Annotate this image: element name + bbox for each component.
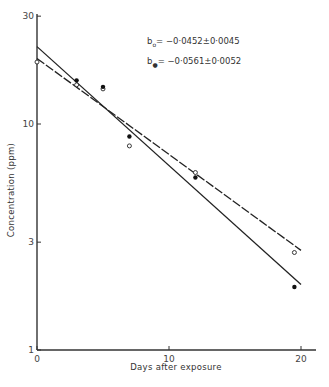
open-data-point [292,251,296,255]
filled-data-point [193,175,197,179]
y-tick-label: 10 [23,119,35,129]
slope-annotation: bo= −0·0452±0·0045 b●= −0·0561±0·0052 [147,36,241,68]
y-tick-label: 3 [28,237,34,247]
annotation-open-label: bo= −0·0452±0·0045 [147,36,240,48]
chart: 13103001020 bo= −0·0452±0·0045 b●= −0·05… [0,0,329,387]
data-points [35,60,297,289]
y-tick-label: 1 [28,345,34,355]
filled-data-point [292,285,296,289]
y-axis-label: Concentration (ppm) [6,143,16,237]
open-data-point [127,144,131,148]
annotation-filled-label: b●= −0·0561±0·0052 [147,56,241,68]
y-tick-label: 30 [23,11,35,21]
filled-data-point [74,78,78,82]
filled-data-point [127,134,131,138]
filled-data-point [101,85,105,89]
x-tick-label: 20 [295,354,307,364]
open-data-point [35,60,39,64]
x-axis-label: Days after exposure [130,362,221,372]
open-data-point [193,171,197,175]
x-tick-label: 0 [34,354,40,364]
open-data-point [75,83,79,87]
